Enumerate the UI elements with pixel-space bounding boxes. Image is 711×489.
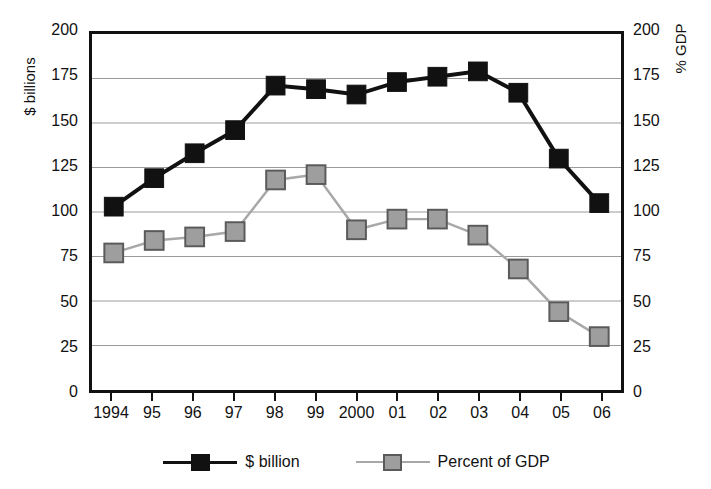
x-tick-mark [192, 393, 194, 401]
y-tick-label-left: 75 [60, 248, 78, 264]
legend-swatch-square-black-icon [163, 453, 237, 471]
data-point-marker [307, 165, 326, 184]
y-tick-label-left: 100 [51, 203, 78, 219]
data-point-marker [509, 260, 528, 279]
x-tick-mark [274, 393, 276, 401]
data-point-marker [226, 121, 245, 140]
data-point-marker [428, 67, 447, 86]
x-tick-label: 95 [143, 404, 161, 422]
series-dollar-billion [104, 62, 608, 216]
x-tick-mark [478, 393, 480, 401]
data-point-marker [549, 302, 568, 321]
x-tick-label: 1994 [93, 404, 129, 422]
x-tick-mark [396, 393, 398, 401]
data-point-marker [428, 210, 447, 229]
data-point-marker [388, 210, 407, 229]
x-tick-label: 98 [266, 404, 284, 422]
data-point-marker [104, 244, 123, 263]
y-axis-left-ticks: 0255075100125150175200 [34, 0, 78, 489]
data-point-marker [266, 171, 285, 190]
x-tick-mark [560, 393, 562, 401]
data-point-marker [104, 197, 123, 216]
y-tick-label-left: 150 [51, 113, 78, 129]
y-tick-label-right: 150 [633, 113, 660, 129]
data-point-marker [145, 169, 164, 188]
data-point-marker [509, 83, 528, 102]
chart-legend: $ billion Percent of GDP [89, 447, 624, 477]
y-tick-label-right: 125 [633, 158, 660, 174]
data-point-marker [347, 85, 366, 104]
x-tick-mark [233, 393, 235, 401]
x-tick-mark [519, 393, 521, 401]
y-tick-label-left: 25 [60, 339, 78, 355]
x-tick-label: 01 [389, 404, 407, 422]
x-tick-mark [356, 393, 358, 401]
x-axis: 199495969798992000010203040506 [89, 393, 624, 433]
x-tick-label: 06 [593, 404, 611, 422]
y-tick-label-left: 200 [51, 22, 78, 38]
x-tick-label: 04 [511, 404, 529, 422]
series-percent-of-gdp [104, 165, 608, 346]
x-tick-label: 05 [552, 404, 570, 422]
y-tick-label-left: 175 [51, 67, 78, 83]
x-tick-mark [151, 393, 153, 401]
data-point-marker [266, 76, 285, 95]
y-tick-label-left: 50 [60, 294, 78, 310]
legend-label-dollar-billion: $ billion [245, 453, 299, 471]
x-tick-label: 2000 [339, 404, 375, 422]
y-tick-label-right: 25 [633, 339, 651, 355]
y-axis-right-ticks: 0255075100125150175200 [633, 0, 677, 489]
x-tick-label: 97 [225, 404, 243, 422]
y-tick-label-right: 100 [633, 203, 660, 219]
x-tick-mark [110, 393, 112, 401]
data-point-marker [226, 222, 245, 241]
x-tick-mark [437, 393, 439, 401]
data-point-marker [388, 73, 407, 92]
data-point-marker [185, 144, 204, 163]
x-tick-mark [315, 393, 317, 401]
y-tick-label-right: 50 [633, 294, 651, 310]
x-tick-mark [601, 393, 603, 401]
data-point-marker [347, 220, 366, 239]
data-point-marker [468, 226, 487, 245]
data-point-marker [549, 149, 568, 168]
x-tick-label: 02 [429, 404, 447, 422]
x-tick-label: 03 [470, 404, 488, 422]
y-tick-label-left: 125 [51, 158, 78, 174]
legend-item-dollar-billion[interactable]: $ billion [163, 453, 299, 471]
chart-container: $ billions % GDP 0255075100125150175200 … [0, 0, 711, 489]
y-tick-label-right: 200 [633, 22, 660, 38]
x-tick-label: 96 [184, 404, 202, 422]
data-point-marker [307, 80, 326, 99]
y-tick-label-right: 175 [633, 67, 660, 83]
data-point-marker [185, 228, 204, 247]
legend-label-percent-of-gdp: Percent of GDP [438, 453, 550, 471]
y-tick-label-right: 0 [633, 384, 642, 400]
legend-item-percent-of-gdp[interactable]: Percent of GDP [356, 453, 550, 471]
legend-swatch-square-gray-icon [356, 453, 430, 471]
y-tick-label-left: 0 [69, 384, 78, 400]
data-point-marker [590, 194, 609, 213]
plot-svg [92, 34, 621, 390]
data-point-marker [145, 231, 164, 250]
y-tick-label-right: 75 [633, 248, 651, 264]
data-point-marker [468, 62, 487, 81]
plot-area [89, 31, 624, 393]
x-tick-label: 99 [307, 404, 325, 422]
series-line [114, 175, 599, 337]
data-point-marker [590, 327, 609, 346]
